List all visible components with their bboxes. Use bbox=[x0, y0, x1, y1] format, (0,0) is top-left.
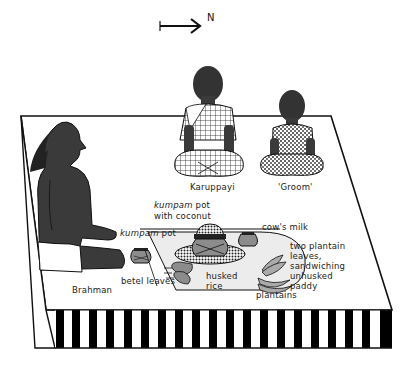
label-plantain-leaves-3: sandwiching bbox=[290, 261, 345, 271]
cows-milk-pot bbox=[239, 232, 258, 246]
label-kumpam-italic: kumpam bbox=[154, 200, 193, 210]
label-kumpam-pot: kumpam pot bbox=[120, 228, 176, 238]
label-betel-leaves: betel leaves bbox=[121, 276, 175, 286]
label-with-coconut: with coconut bbox=[154, 211, 211, 221]
label-pot-2: pot bbox=[159, 228, 176, 238]
label-kumpam-italic-2: kumpam bbox=[120, 228, 159, 238]
label-husked-rice-2: rice bbox=[206, 281, 223, 291]
label-plantain-leaves-1: two plantain bbox=[290, 241, 345, 251]
label-husked-rice-1: husked bbox=[206, 271, 238, 281]
label-cows-milk: cow's milk bbox=[262, 222, 308, 232]
label-plantain-leaves-4: unhusked bbox=[290, 271, 333, 281]
label-brahman: Brahman bbox=[72, 285, 112, 295]
label-kumpam-pot-coconut: kumpam pot bbox=[154, 200, 210, 210]
figure-karuppayi bbox=[175, 66, 244, 176]
label-pot: pot bbox=[193, 200, 210, 210]
label-plantains: plantains bbox=[256, 290, 297, 300]
kumpam-pot bbox=[131, 248, 151, 263]
label-groom: 'Groom' bbox=[278, 182, 313, 192]
label-karuppayi: Karuppayi bbox=[190, 182, 235, 192]
label-plantain-leaves-2: leaves, bbox=[290, 251, 322, 261]
compass-north-label: N bbox=[207, 12, 214, 23]
north-arrow-icon bbox=[160, 19, 200, 33]
